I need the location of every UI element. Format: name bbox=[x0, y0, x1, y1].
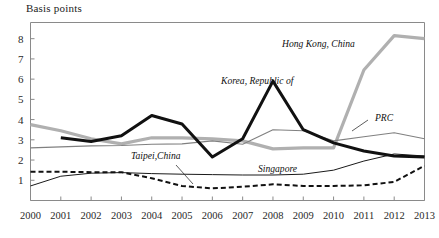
annotation-prc: PRC bbox=[374, 112, 394, 123]
x-tick-label-2002: 2002 bbox=[81, 210, 102, 221]
y-tick-label-7: 7 bbox=[18, 53, 24, 65]
leader-line-prc bbox=[352, 120, 368, 131]
x-tick-label-2010: 2010 bbox=[323, 210, 344, 221]
y-tick-label-3: 3 bbox=[18, 134, 24, 146]
x-tick-label-2012: 2012 bbox=[384, 210, 405, 221]
y-tick-label-4: 4 bbox=[18, 114, 24, 126]
series-line-hong-kong-china bbox=[31, 36, 425, 149]
y-tick-label-6: 6 bbox=[18, 73, 24, 85]
y-tick-label-1: 1 bbox=[18, 174, 24, 186]
series-line-taipei-china bbox=[31, 166, 425, 189]
series-line-singapore bbox=[31, 154, 425, 186]
annotation-hong-kong-china: Hong Kong, China bbox=[281, 38, 355, 49]
y-tick-label-2: 2 bbox=[18, 154, 24, 166]
x-tick-label-2011: 2011 bbox=[354, 210, 375, 221]
annotation-taipei-china: Taipei,China bbox=[131, 150, 181, 161]
x-tick-label-2001: 2001 bbox=[50, 210, 71, 221]
y-tick-label-5: 5 bbox=[18, 93, 24, 105]
chart-container: Basis points 123456782000200120022003200… bbox=[0, 0, 439, 238]
x-tick-label-2008: 2008 bbox=[262, 210, 283, 221]
x-tick-label-2000: 2000 bbox=[20, 210, 41, 221]
x-tick-label-2009: 2009 bbox=[293, 210, 314, 221]
annotation-singapore: Singapore bbox=[258, 163, 298, 174]
annotation-korea-republic-of: Korea, Republic of bbox=[220, 75, 295, 86]
x-tick-label-2004: 2004 bbox=[141, 210, 163, 221]
x-tick-label-2006: 2006 bbox=[202, 210, 223, 221]
x-tick-label-2013: 2013 bbox=[414, 210, 435, 221]
y-tick-label-8: 8 bbox=[18, 33, 24, 45]
line-chart-canvas: 1234567820002001200220032004200520062007… bbox=[0, 0, 439, 238]
x-tick-label-2007: 2007 bbox=[232, 210, 253, 221]
x-tick-label-2003: 2003 bbox=[111, 210, 132, 221]
x-tick-label-2005: 2005 bbox=[172, 210, 193, 221]
